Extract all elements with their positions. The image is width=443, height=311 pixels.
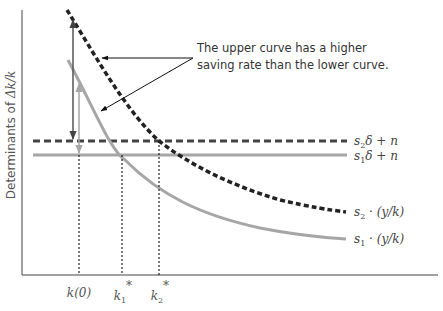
k0-tick-label: k(0) (67, 286, 92, 300)
s1-saving-curve (68, 60, 346, 239)
s2-depreciation-label: s2δ + n (354, 134, 398, 150)
s1-saving-label: s1 · (y/k) (354, 232, 404, 248)
s1-depreciation-label: s1δ + n (354, 149, 398, 165)
growth-determinants-chart: Determinants of Δk/k The upper curve has… (0, 0, 443, 311)
k1-star-mark: * (126, 279, 132, 293)
k2-star-mark: * (163, 279, 169, 293)
s2-saving-label: s2 · (y/k) (354, 205, 404, 221)
y-axis-label: Determinants of Δk/k (4, 71, 18, 199)
k2-star-tick-label: k2 (151, 289, 163, 305)
annotation-line-1: The upper curve has a higher (196, 41, 367, 55)
k1-star-tick-label: k1 (114, 289, 126, 305)
annotation-line-2: saving rate than the lower curve. (197, 58, 389, 72)
